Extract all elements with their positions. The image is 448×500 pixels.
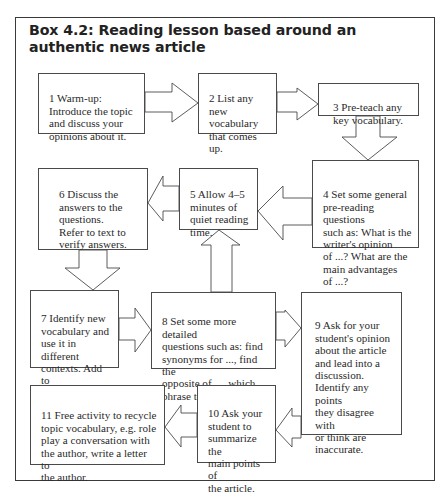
step-10-summarize: 10 Ask your student to summarize the mai… — [197, 385, 276, 463]
step-6-text: 6 Discuss the answers to the questions. … — [59, 188, 127, 250]
step-5-quiet-reading: 5 Allow 4–5 minutes of quiet reading tim… — [179, 168, 258, 230]
arrow-down-icon — [65, 250, 120, 290]
arrow-left-icon — [276, 408, 301, 447]
step-3-pre-teach: 3 Pre-teach any key vocabulary. — [318, 83, 419, 116]
step-6-discuss-answers: 6 Discuss the answers to the questions. … — [38, 168, 148, 250]
arrow-right-icon — [145, 83, 198, 122]
arrow-left-icon — [148, 176, 179, 221]
arrow-up-icon — [201, 230, 240, 292]
step-9-opinion-discussion: 9 Ask for your student's opinion about t… — [301, 292, 402, 435]
arrow-right-icon — [277, 88, 318, 120]
arrow-right-icon — [276, 310, 301, 347]
arrow-right-icon — [119, 308, 151, 352]
figure-canvas: Box 4.2: Reading lesson based around an … — [0, 0, 448, 500]
step-8-detailed-questions: 8 Set some more detailed questions such … — [151, 292, 276, 369]
arrow-left-icon — [258, 186, 312, 240]
step-4-pre-reading-questions: 4 Set some general pre-reading questions… — [312, 160, 419, 248]
step-7-identify-vocabulary: 7 Identify new vocabulary and use it in … — [30, 290, 119, 368]
step-10-text: 10 Ask your student to summarize the mai… — [208, 407, 262, 493]
step-1-warm-up: 1 Warm-up: Introduce the topic and discu… — [38, 73, 145, 134]
arrow-left-icon — [165, 405, 197, 447]
step-2-list-vocabulary: 2 List any new vocabulary that comes up. — [198, 73, 277, 134]
step-11-free-activity: 11 Free activity to recycle topic vocabu… — [30, 385, 165, 465]
step-1-text: 1 Warm-up: Introduce the topic and discu… — [49, 92, 133, 141]
step-3-text: 3 Pre-teach any key vocabulary. — [333, 101, 403, 125]
